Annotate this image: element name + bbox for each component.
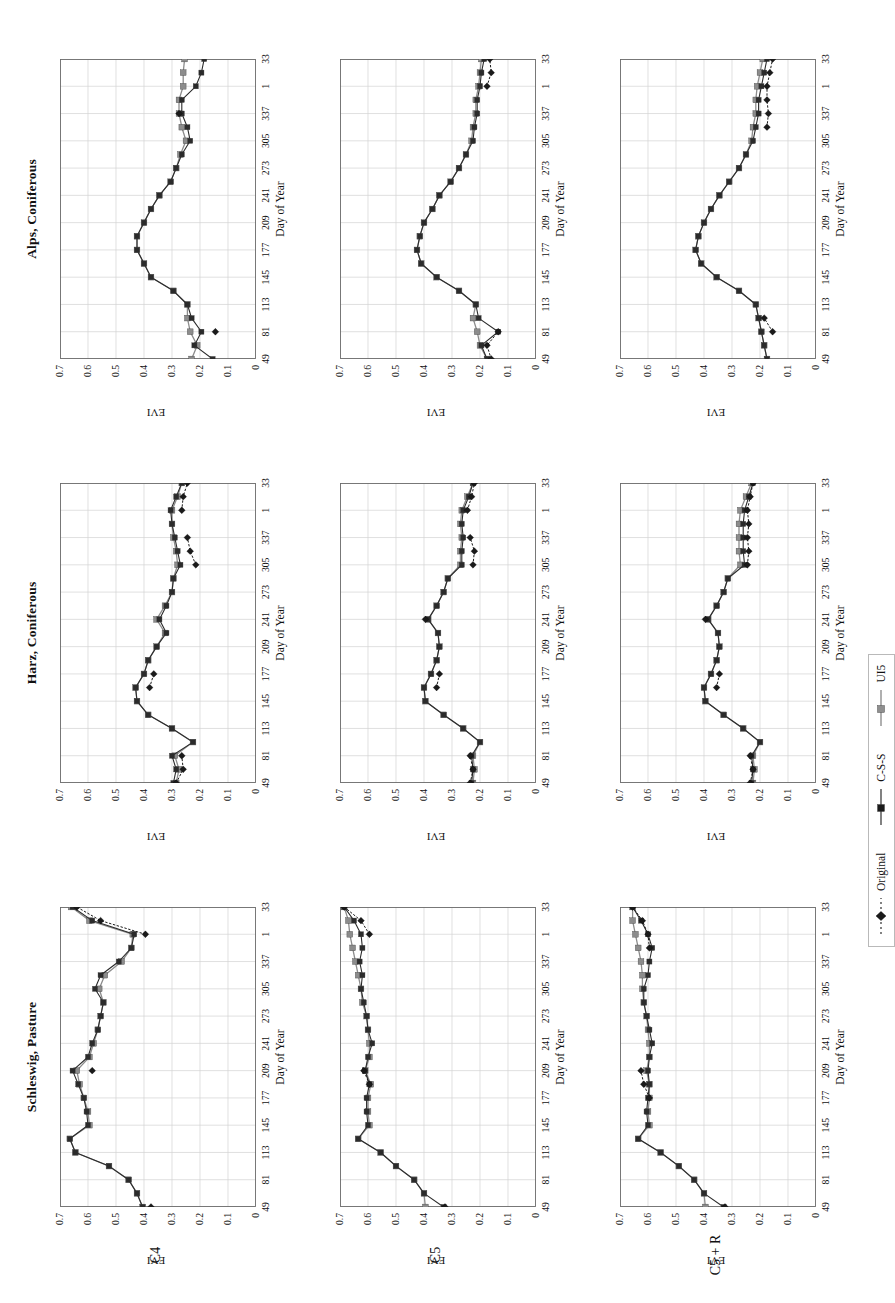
data-point	[640, 972, 646, 978]
x-tick-label-schleswig-c4: 81	[260, 1164, 271, 1196]
data-point	[421, 220, 426, 225]
y-tick-label-harz-c4: 0.4	[138, 789, 149, 817]
x-tick-label-harz-c5: 241	[540, 603, 551, 635]
legend-item-ui5: UI5	[874, 665, 888, 728]
data-point	[476, 316, 481, 321]
plot-area-alps-c5r	[620, 59, 816, 359]
data-point	[708, 206, 713, 211]
y-tick-label-schleswig-c5: 0.4	[418, 1213, 429, 1241]
x-axis-title-harz-c4: Day of Year	[274, 583, 286, 683]
y-axis-title-schleswig-c4: EVI	[136, 1255, 176, 1267]
x-tick-label-alps-c5r: 241	[820, 179, 831, 211]
data-point	[470, 561, 477, 568]
data-point	[146, 712, 151, 717]
data-point	[441, 712, 446, 717]
data-point	[727, 179, 732, 184]
data-point	[461, 726, 466, 731]
x-tick-label-harz-c4: 113	[260, 712, 271, 744]
data-point	[764, 356, 769, 359]
x-tick-label-harz-c4: 177	[260, 658, 271, 690]
x-tick-label-alps-c4: 177	[260, 234, 271, 266]
x-tick-label-schleswig-c5r: 49	[820, 1191, 831, 1223]
data-point	[428, 671, 433, 676]
data-point	[358, 986, 363, 991]
data-point	[696, 234, 701, 239]
data-point	[89, 1067, 96, 1074]
x-tick-label-schleswig-c5r: 241	[820, 1027, 831, 1059]
y-tick-label-harz-c5r: 0.1	[782, 789, 793, 817]
data-point	[414, 247, 419, 252]
data-point	[693, 247, 698, 252]
x-tick-label-alps-c5: 145	[540, 261, 551, 293]
x-tick-label-schleswig-c4: 1	[260, 918, 271, 950]
data-point	[148, 1204, 155, 1207]
data-point	[142, 931, 149, 938]
data-point	[762, 343, 767, 348]
data-point	[753, 125, 758, 130]
data-point	[436, 671, 443, 678]
x-tick-label-harz-c4: 209	[260, 631, 271, 663]
y-axis-title-harz-c5r: EVI	[696, 831, 736, 843]
data-point	[364, 1014, 369, 1019]
data-point	[741, 521, 746, 526]
data-point	[172, 535, 177, 540]
data-point	[638, 959, 644, 965]
data-point	[175, 549, 180, 554]
data-point	[714, 603, 719, 608]
x-tick-label-schleswig-c5: 81	[540, 1164, 551, 1196]
plot-area-harz-c5r	[620, 483, 816, 783]
data-point	[180, 493, 187, 500]
y-tick-label-schleswig-c5r: 0.5	[670, 1213, 681, 1241]
data-point	[477, 84, 482, 89]
x-tick-label-alps-c4: 49	[260, 343, 271, 375]
y-tick-label-alps-c5r: 0.4	[698, 365, 709, 393]
x-tick-label-harz-c4: 1	[260, 494, 271, 526]
y-tick-label-harz-c4: 0.1	[222, 789, 233, 817]
data-point	[650, 1041, 655, 1046]
data-point	[471, 548, 478, 555]
data-point	[456, 166, 461, 171]
data-point	[157, 193, 162, 198]
data-point	[437, 193, 442, 198]
x-tick-label-schleswig-c5: 145	[540, 1109, 551, 1141]
x-tick-label-harz-c5: 49	[540, 767, 551, 799]
x-tick-label-schleswig-c5r: 113	[820, 1136, 831, 1168]
data-point	[715, 630, 720, 635]
data-point	[141, 261, 146, 266]
data-point	[132, 932, 137, 937]
data-point	[430, 206, 435, 211]
y-tick-label-schleswig-c4: 0.2	[194, 1213, 205, 1241]
data-point	[647, 959, 652, 964]
y-tick-label-alps-c5: 0.1	[502, 365, 513, 393]
data-point	[482, 59, 487, 62]
data-point	[703, 1204, 709, 1207]
data-point	[769, 59, 776, 62]
x-tick-label-schleswig-c4: 273	[260, 1000, 271, 1032]
x-tick-label-harz-c5: 337	[540, 522, 551, 554]
y-tick-label-harz-c5: 0.4	[418, 789, 429, 817]
data-point	[350, 945, 356, 951]
data-point	[636, 1136, 641, 1141]
data-point	[85, 1123, 90, 1128]
y-tick-label-schleswig-c4: 0.3	[166, 1213, 177, 1241]
y-tick-label-schleswig-c5r: 0.2	[754, 1213, 765, 1241]
data-point	[212, 328, 219, 335]
panel-alps-c5	[340, 59, 536, 359]
y-tick-label-harz-c5r: 0.4	[698, 789, 709, 817]
x-tick-label-alps-c5: 305	[540, 125, 551, 157]
data-point	[179, 97, 184, 102]
x-tick-label-alps-c4: 81	[260, 316, 271, 348]
x-tick-label-harz-c4: 81	[260, 740, 271, 772]
data-point	[148, 206, 153, 211]
plot-area-schleswig-c5	[340, 907, 536, 1207]
legend-item-original: Original	[874, 853, 888, 936]
data-point	[764, 124, 771, 131]
y-tick-label-alps-c4: 0.7	[54, 365, 65, 393]
x-tick-label-harz-c4: 145	[260, 685, 271, 717]
data-point	[757, 740, 762, 745]
data-point	[157, 617, 162, 622]
panel-schleswig-c5r	[620, 907, 816, 1207]
legend-marker-diamond-icon	[874, 896, 888, 936]
data-point	[421, 1191, 426, 1196]
